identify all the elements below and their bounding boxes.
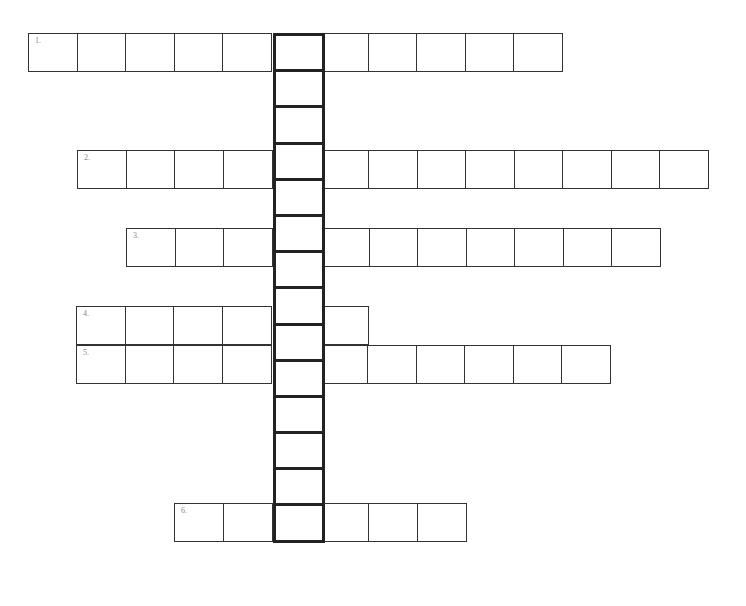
key-cell-5[interactable] xyxy=(273,178,325,217)
row-2-cell-7[interactable] xyxy=(368,150,418,189)
clue-number-4: 4. xyxy=(83,310,89,318)
row-4-cell-4[interactable] xyxy=(222,306,272,345)
row-3-cell-7[interactable] xyxy=(417,228,467,267)
row-2-cell-13[interactable] xyxy=(659,150,709,189)
row-1-cell-11[interactable] xyxy=(513,33,563,72)
row-5-cell-4[interactable] xyxy=(222,345,272,384)
row-5-cell-7[interactable] xyxy=(367,345,417,384)
row-5-cell-8[interactable] xyxy=(416,345,466,384)
row-4-cell-3[interactable] xyxy=(173,306,223,345)
clue-number-5: 5. xyxy=(83,349,89,357)
row-1-cell-3[interactable] xyxy=(125,33,175,72)
puzzle-row-5: 5. xyxy=(76,345,611,384)
puzzle-row-3: 3. xyxy=(126,228,661,267)
row-1-cell-10[interactable] xyxy=(465,33,515,72)
row-3-cell-5[interactable] xyxy=(320,228,370,267)
row-4-cell-2[interactable] xyxy=(125,306,175,345)
key-cell-6[interactable] xyxy=(273,214,325,253)
row-5-cell-2[interactable] xyxy=(125,345,175,384)
key-cell-8[interactable] xyxy=(273,286,325,325)
row-2-cell-11[interactable] xyxy=(562,150,612,189)
key-cell-9[interactable] xyxy=(273,323,325,362)
row-4-cell-1[interactable]: 4. xyxy=(76,306,126,345)
row-2-cell-9[interactable] xyxy=(465,150,515,189)
row-2-cell-3[interactable] xyxy=(174,150,224,189)
row-1-cell-5[interactable] xyxy=(222,33,272,72)
row-6-cell-5[interactable] xyxy=(368,503,418,542)
row-1-cell-8[interactable] xyxy=(368,33,418,72)
row-5-cell-3[interactable] xyxy=(173,345,223,384)
row-3-cell-3[interactable] xyxy=(223,228,273,267)
clue-number-2: 2. xyxy=(84,154,90,162)
row-6-cell-2[interactable] xyxy=(223,503,273,542)
key-cell-12[interactable] xyxy=(273,431,325,470)
row-3-cell-6[interactable] xyxy=(369,228,419,267)
row-2-cell-10[interactable] xyxy=(514,150,564,189)
row-1-cell-7[interactable] xyxy=(319,33,369,72)
row-2-cell-8[interactable] xyxy=(417,150,467,189)
key-cell-13[interactable] xyxy=(273,467,325,506)
row-3-cell-9[interactable] xyxy=(514,228,564,267)
row-5-cell-9[interactable] xyxy=(464,345,514,384)
row-1-cell-4[interactable] xyxy=(174,33,224,72)
key-cell-1[interactable] xyxy=(273,33,325,72)
row-5-cell-1[interactable]: 5. xyxy=(76,345,126,384)
key-cell-3[interactable] xyxy=(273,105,325,144)
row-6-cell-6[interactable] xyxy=(417,503,467,542)
row-2-cell-2[interactable] xyxy=(126,150,176,189)
row-6-cell-1[interactable]: 6. xyxy=(174,503,224,542)
row-1-cell-9[interactable] xyxy=(416,33,466,72)
key-word-column xyxy=(273,33,325,543)
row-5-cell-10[interactable] xyxy=(513,345,563,384)
row-1-cell-1[interactable]: 1. xyxy=(28,33,78,72)
row-3-cell-8[interactable] xyxy=(466,228,516,267)
row-3-cell-1[interactable]: 3. xyxy=(126,228,176,267)
key-cell-10[interactable] xyxy=(273,359,325,398)
key-cell-11[interactable] xyxy=(273,395,325,434)
clue-number-1: 1. xyxy=(35,37,41,45)
row-2-cell-6[interactable] xyxy=(320,150,370,189)
row-3-cell-11[interactable] xyxy=(611,228,661,267)
row-3-cell-10[interactable] xyxy=(563,228,613,267)
row-6-cell-4[interactable] xyxy=(320,503,370,542)
row-2-cell-1[interactable]: 2. xyxy=(77,150,127,189)
key-cell-14[interactable] xyxy=(273,503,325,542)
row-5-cell-11[interactable] xyxy=(561,345,611,384)
row-5-cell-6[interactable] xyxy=(319,345,369,384)
row-1-cell-2[interactable] xyxy=(77,33,127,72)
key-cell-2[interactable] xyxy=(273,69,325,108)
crossword-puzzle: 1. 2. 3. xyxy=(0,0,746,606)
puzzle-row-2: 2. xyxy=(77,150,709,189)
row-2-cell-4[interactable] xyxy=(223,150,273,189)
key-cell-4[interactable] xyxy=(273,142,325,181)
clue-number-6: 6. xyxy=(181,507,187,515)
row-3-cell-2[interactable] xyxy=(175,228,225,267)
row-2-cell-12[interactable] xyxy=(611,150,661,189)
clue-number-3: 3. xyxy=(133,232,139,240)
key-cell-7[interactable] xyxy=(273,250,325,289)
row-4-cell-6[interactable] xyxy=(319,306,369,345)
